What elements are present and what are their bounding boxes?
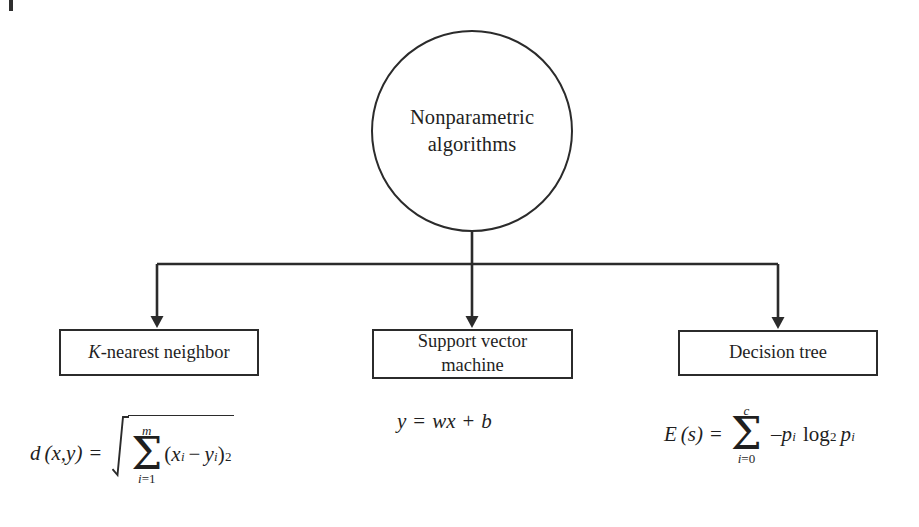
formula-entropy-summand: –pilog2pi (771, 422, 855, 447)
formula-svm-bias: b (481, 409, 492, 434)
formula-entropy-equals: = (703, 422, 729, 447)
summation-symbol-knn: m Σ i=1 (131, 424, 162, 485)
summation-lower-limit-knn: i=1 (138, 472, 155, 485)
node-knn-label-rest: -nearest neighbor (101, 342, 230, 362)
summation-symbol-entropy: c Σ i=0 (731, 404, 762, 465)
root-node-label-line2: algorithms (428, 133, 517, 155)
summation-lower-limit-entropy: i=0 (738, 452, 755, 465)
node-k-nearest-neighbor: K-nearest neighbor (59, 329, 259, 376)
node-support-vector-machine: Support vector machine (372, 329, 573, 379)
formula-knn-equals: = (82, 441, 108, 466)
formula-svm-weight: w (432, 409, 446, 434)
node-svm-label-line2: machine (441, 355, 504, 375)
node-svm-label-line1: Support vector (418, 331, 527, 351)
arrowhead-left (151, 316, 164, 328)
formula-entropy-lhs: E (664, 422, 677, 447)
root-node-nonparametric-algorithms: Nonparametric algorithms (371, 30, 573, 232)
formula-knn-radical: m Σ i=1 (xi−yi)2 (112, 415, 233, 491)
arrowhead-middle (466, 316, 479, 328)
root-node-label-line1: Nonparametric (410, 106, 534, 128)
sigma-icon: Σ (731, 416, 762, 452)
formula-svm-lhs: y (397, 409, 406, 434)
formula-svm-linear-model: y = wx + b (397, 409, 492, 434)
formula-knn-lhs: d (30, 441, 41, 466)
formula-entropy-log: log (803, 422, 830, 447)
formula-knn-radicand: m Σ i=1 (xi−yi)2 (128, 415, 233, 491)
root-node-label: Nonparametric algorithms (396, 104, 548, 158)
formula-knn-lhs-args: (x,y) (45, 441, 83, 466)
square-root-icon (112, 415, 129, 491)
diagram-canvas: Nonparametric algorithms K-nearest neigh… (0, 0, 919, 527)
formula-svm-input: x (446, 409, 455, 434)
formula-decision-tree-entropy: E (s) = c Σ i=0 –pilog2pi (664, 404, 855, 465)
node-decision-tree-label: Decision tree (729, 341, 827, 365)
sigma-icon: Σ (131, 436, 162, 472)
arrowhead-right (772, 317, 785, 329)
formula-svm-plus: + (456, 409, 482, 434)
node-k-nearest-neighbor-label: K-nearest neighbor (88, 341, 229, 365)
formula-knn-euclidean-distance: d (x,y) = m Σ i=1 (xi−yi)2 (30, 415, 234, 491)
node-support-vector-machine-label: Support vector machine (418, 330, 527, 377)
formula-entropy-lhs-args: (s) (681, 422, 703, 447)
node-knn-label-italic-k: K (88, 342, 100, 362)
node-decision-tree: Decision tree (678, 330, 878, 376)
formula-svm-equals: = (406, 409, 432, 434)
formula-knn-summand: (xi−yi)2 (164, 442, 231, 467)
